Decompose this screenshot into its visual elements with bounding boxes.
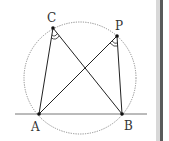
segment-pb [117,36,122,114]
angle-mark-p-inner [112,41,118,43]
angle-mark-c-inner [52,34,58,36]
label-p: P [115,19,123,33]
angle-mark-c-outer [51,36,59,39]
label-c: C [47,11,56,25]
geometry-diagram: A B C P [0,0,169,141]
point-b [120,112,124,116]
point-p [115,34,119,38]
point-c [51,26,55,30]
segment-ca [39,28,53,114]
panel-divider [160,0,163,141]
label-b: B [124,119,133,133]
label-a: A [30,120,40,134]
point-a [37,112,41,116]
segment-pa [39,36,117,114]
